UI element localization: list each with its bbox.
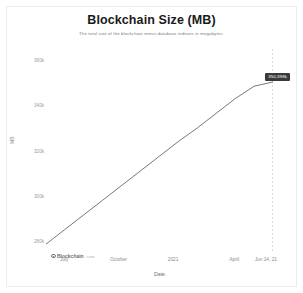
y-tick-label: 300k bbox=[34, 193, 44, 198]
x-tick-label: Jun 14, 21 bbox=[255, 257, 277, 262]
y-tick-label: 340k bbox=[34, 103, 44, 108]
series-line-blockchain-size bbox=[46, 82, 273, 244]
watermark-suffix: .com bbox=[85, 254, 95, 259]
x-tick-label: 2021 bbox=[168, 257, 179, 262]
y-tick-label: 280k bbox=[34, 238, 44, 243]
watermark-name: Blockchain bbox=[57, 253, 84, 259]
watermark: Blockchain .com bbox=[51, 253, 95, 259]
x-tick-label: October bbox=[110, 257, 127, 262]
y-tick-label: 320k bbox=[34, 148, 44, 153]
y-axis-title: MB bbox=[9, 137, 15, 145]
blockchain-logo-icon bbox=[51, 254, 56, 259]
endpoint-value-badge: 350,398k bbox=[265, 73, 290, 81]
page-title: Blockchain Size (MB) bbox=[7, 13, 296, 27]
chart-subtitle: The total size of the blockchain minus d… bbox=[7, 31, 296, 36]
y-axis-ticks: 360k340k320k300k280k bbox=[23, 49, 44, 252]
x-axis-title: Date bbox=[46, 271, 273, 277]
plot-area bbox=[46, 49, 273, 252]
line-chart-svg bbox=[46, 49, 273, 252]
x-tick-label: April bbox=[230, 257, 240, 262]
y-tick-label: 360k bbox=[34, 58, 44, 63]
chart-card: Blockchain Size (MB) The total size of t… bbox=[6, 6, 297, 287]
